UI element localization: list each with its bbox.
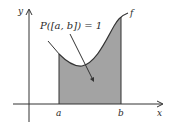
equation-label: P([a, b]) = 1 bbox=[39, 20, 102, 31]
interval-start-label: a bbox=[56, 108, 61, 118]
x-axis-label: x bbox=[157, 108, 162, 118]
y-axis-label: y bbox=[17, 6, 24, 16]
curve-label: f bbox=[129, 8, 135, 18]
pointer-line-left bbox=[48, 41, 60, 55]
interval-end-label: b bbox=[118, 108, 124, 118]
probability-density-diagram: P([a, b]) = 1 y x f a b bbox=[0, 0, 171, 130]
